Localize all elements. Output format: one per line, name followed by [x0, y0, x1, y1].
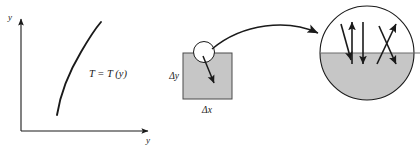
- thermal-boundary-layer-figure: y y T = T (y) Δy Δx: [0, 0, 420, 151]
- temperature-profile-plot: [21, 19, 148, 131]
- figure-canvas: y y T = T (y) Δy Δx: [0, 0, 420, 151]
- magnified-view-group: [318, 4, 420, 103]
- fluid-element-group: [183, 42, 232, 100]
- magnify-connector-arrow: [212, 25, 318, 49]
- plot-x-axis-label: y: [145, 135, 150, 145]
- plot-y-axis-label: y: [7, 12, 12, 22]
- temperature-curve-label: T = T (y): [89, 68, 127, 80]
- element-width-label: Δx: [201, 105, 213, 115]
- element-height-label: Δy: [168, 71, 180, 81]
- liquid-region: [318, 53, 420, 103]
- gas-region: [318, 4, 418, 53]
